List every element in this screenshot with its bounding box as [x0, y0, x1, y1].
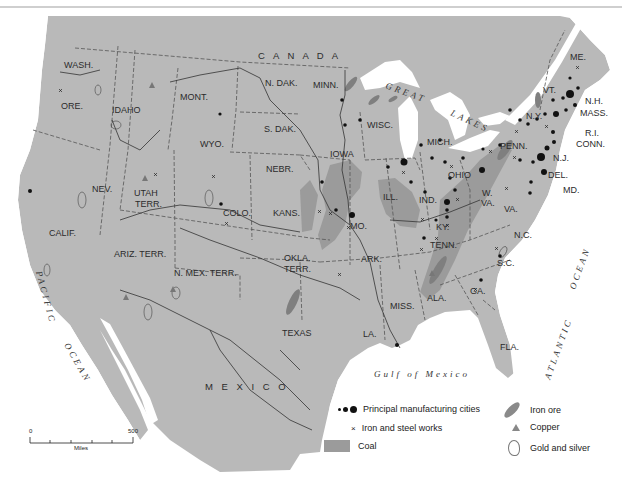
label-wva-va: VA. [481, 198, 495, 208]
label-nebr: NEBR. [266, 164, 294, 174]
label-me: ME. [570, 52, 586, 62]
label-wva-w: W. [482, 188, 493, 198]
label-mexico: M E X I C O [205, 381, 289, 392]
label-utah: UTAH [134, 188, 158, 198]
label-colo: COLO. [223, 208, 251, 218]
map-legend: Principal manufacturing cities × Iron an… [338, 390, 622, 460]
label-idaho: IDAHO [112, 105, 141, 115]
label-sc: S.C. [497, 258, 515, 268]
legend-copper: Copper [512, 422, 560, 432]
label-nev: NEV. [92, 184, 112, 194]
label-okla-terr: TERR. [284, 264, 311, 274]
legend-iron-ore: Iron ore [508, 400, 561, 420]
label-ky: KY. [436, 222, 449, 232]
label-penn: PENN. [500, 141, 528, 151]
legend-cities: Principal manufacturing cities [338, 404, 480, 414]
label-minn: MINN. [313, 80, 339, 90]
label-ga: GA. [470, 286, 486, 296]
label-ala: ALA. [427, 293, 447, 303]
label-gulf: Gulf of Mexico [374, 369, 470, 379]
label-okla: OKLA. [284, 253, 311, 263]
label-del: DEL. [548, 170, 568, 180]
label-wyo: WYO. [200, 139, 224, 149]
label-conn: CONN. [576, 139, 605, 149]
label-va: VA. [504, 204, 518, 214]
label-utah-terr: TERR. [135, 199, 162, 209]
label-md: MD. [563, 185, 580, 195]
label-mo: MO. [350, 221, 367, 231]
label-vt: VT. [543, 85, 556, 95]
label-nh: N.H. [585, 96, 603, 106]
label-texas: TEXAS [282, 328, 312, 338]
label-fla: FLA. [500, 342, 519, 352]
label-mich: MICH. [427, 137, 453, 147]
label-ill: ILL. [383, 192, 398, 202]
label-calif: CALIF. [49, 228, 76, 238]
label-ore: ORE. [61, 101, 83, 111]
x-mark-icon: × [351, 424, 356, 433]
city-dots-icon [338, 406, 357, 413]
label-nj: N.J. [553, 153, 569, 163]
label-miss: MISS. [390, 301, 415, 311]
iron-ore-icon [502, 400, 522, 420]
label-tenn: TENN. [430, 240, 457, 250]
label-kans: KANS. [273, 208, 300, 218]
label-ohio: OHIO [448, 170, 471, 180]
label-ny: N.Y. [526, 111, 542, 121]
gold-outline-icon [508, 440, 520, 456]
coal-swatch-icon [324, 440, 350, 452]
label-ariz: ARIZ. TERR. [114, 249, 166, 259]
label-wisc: WISC. [367, 120, 393, 130]
label-ri: R.I. [585, 128, 599, 138]
label-ndak: N. DAK. [265, 78, 298, 88]
copper-triangle-icon [512, 424, 520, 431]
label-sdak: S. DAK. [264, 124, 296, 134]
scale-bar: 0 500 Miles [28, 428, 138, 468]
label-iowa: IOWA [330, 149, 354, 159]
legend-coal: Coal [324, 440, 377, 452]
label-la: LA. [363, 329, 377, 339]
legend-gold-silver: Gold and silver [508, 440, 590, 456]
label-mont: MONT. [180, 92, 208, 102]
label-ind: IND. [419, 195, 437, 205]
label-ark: ARK. [361, 254, 382, 264]
label-mass: MASS. [580, 108, 608, 118]
label-wash: WASH. [64, 60, 93, 70]
label-canada: C A N A D A [258, 50, 341, 61]
legend-iron-steel: × Iron and steel works [351, 423, 442, 433]
label-nmex: N. MEX. TERR. [174, 268, 237, 278]
label-nc: N.C. [514, 230, 532, 240]
